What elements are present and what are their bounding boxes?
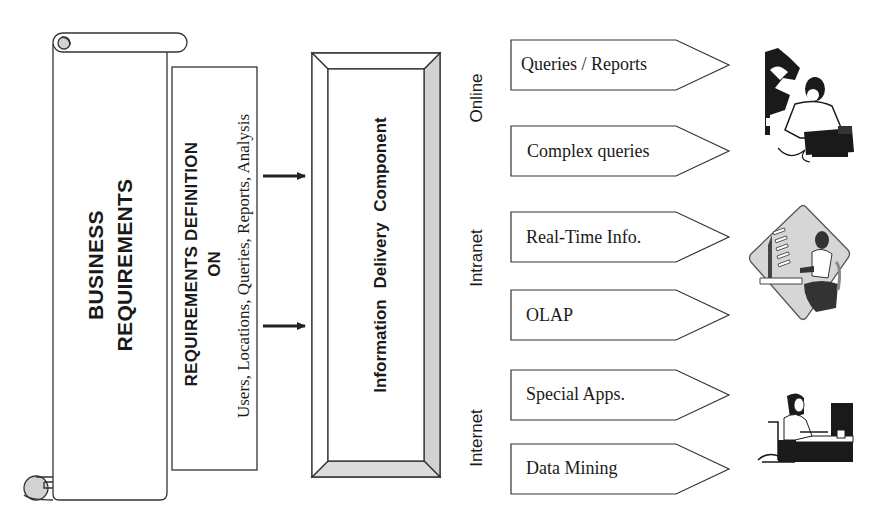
- woman-in-wheelchair-at-computer-illustration: [758, 393, 853, 462]
- channel-label-online: Online: [467, 73, 487, 122]
- output-tag-complex-queries: Complex queries: [527, 141, 649, 162]
- output-tag-olap: OLAP: [526, 305, 573, 326]
- channel-label-internet: Internet: [467, 409, 487, 467]
- channel-label-intranet: Intranet: [467, 229, 487, 287]
- information-delivery-label: Information Delivery Component: [371, 117, 391, 393]
- requirements-definition-title: REQUIREMENTS DEFINITION: [182, 142, 202, 387]
- requirements-definition-subjects: Users, Locations, Queries, Reports, Anal…: [234, 114, 254, 418]
- output-tag-special-apps: Special Apps.: [526, 384, 625, 405]
- requirements-definition-connector: ON: [205, 251, 225, 277]
- man-at-laptop-illustration: [765, 48, 854, 162]
- output-tag-data-mining: Data Mining: [526, 458, 618, 479]
- business-line: BUSINESS: [81, 179, 110, 352]
- person-at-computer-diamond-illustration: [750, 206, 850, 320]
- output-tag-queries-reports: Queries / Reports: [521, 54, 647, 75]
- output-tag-real-time-info: Real-Time Info.: [526, 227, 641, 248]
- output-tags: [511, 40, 729, 494]
- requirements-line: REQUIREMENTS: [110, 179, 139, 352]
- business-requirements-label: BUSINESS REQUIREMENTS: [81, 179, 139, 352]
